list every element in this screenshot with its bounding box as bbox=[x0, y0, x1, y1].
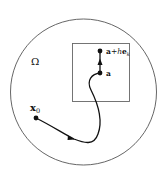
domain-boundary-circle bbox=[11, 19, 157, 165]
increment-arrow-icon bbox=[98, 59, 103, 66]
path-curve bbox=[36, 73, 100, 143]
path-arrow-icon bbox=[68, 136, 76, 141]
point-x0-label: x0 bbox=[30, 102, 40, 115]
point-x0-dot bbox=[34, 116, 39, 121]
point-a-dot bbox=[98, 71, 103, 76]
diagram-canvas: Ω x0 a a+hek bbox=[0, 0, 167, 185]
point-a-plus-dot bbox=[98, 49, 103, 54]
point-a-plus-label: a+hek bbox=[106, 47, 130, 57]
point-a-label: a bbox=[106, 69, 111, 78]
domain-label: Ω bbox=[31, 56, 39, 67]
